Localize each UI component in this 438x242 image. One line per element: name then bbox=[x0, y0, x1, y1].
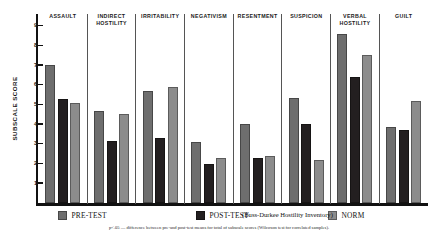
bar-verbal-hostility-norm bbox=[362, 55, 372, 203]
legend-label: NORM bbox=[342, 211, 365, 220]
bar-negativism-norm bbox=[216, 158, 226, 203]
bar-chart: SUBSCALE SCORE 123456789 ASSAULTINDIRECT… bbox=[0, 0, 438, 242]
bar-verbal-hostility-post-test bbox=[350, 77, 360, 203]
bar-guilt-pre-test bbox=[386, 127, 396, 203]
bar-indirect-hostility-post-test bbox=[107, 141, 117, 203]
legend-item-post-test: POST-TEST bbox=[196, 210, 249, 221]
bar-assault-norm bbox=[70, 103, 80, 203]
legend-label: PRE-TEST bbox=[72, 211, 107, 220]
inventory-caption: (Buss-Durkee Hostility Inventory) bbox=[242, 211, 333, 218]
chart-footnote: p<.05 — difference between pre-and post-… bbox=[0, 225, 438, 230]
bar-guilt-post-test bbox=[399, 130, 409, 203]
legend-item-norm: NORM bbox=[328, 210, 364, 221]
legend-swatch-icon bbox=[58, 211, 67, 220]
bar-resentment-norm bbox=[265, 156, 275, 203]
legend-swatch-icon bbox=[196, 211, 205, 220]
legend-item-pre-test: PRE-TEST bbox=[58, 210, 107, 221]
bar-indirect-hostility-norm bbox=[119, 114, 129, 203]
bar-suspicion-norm bbox=[314, 160, 324, 203]
chart-legend: PRE-TESTPOST-TESTNORM bbox=[36, 210, 428, 222]
bar-negativism-post-test bbox=[204, 164, 214, 203]
bars-layer bbox=[0, 0, 438, 203]
bar-resentment-post-test bbox=[253, 158, 263, 203]
bar-resentment-pre-test bbox=[240, 124, 250, 203]
bar-negativism-pre-test bbox=[191, 142, 201, 203]
bar-suspicion-pre-test bbox=[289, 98, 299, 203]
bar-guilt-norm bbox=[411, 101, 421, 203]
bar-verbal-hostility-pre-test bbox=[337, 34, 347, 203]
bar-indirect-hostility-pre-test bbox=[94, 111, 104, 203]
bar-assault-pre-test bbox=[45, 65, 55, 203]
bar-irritability-post-test bbox=[155, 138, 165, 203]
bar-irritability-norm bbox=[168, 87, 178, 203]
bar-suspicion-post-test bbox=[301, 124, 311, 203]
bar-irritability-pre-test bbox=[143, 91, 153, 203]
bar-assault-post-test bbox=[58, 99, 68, 203]
